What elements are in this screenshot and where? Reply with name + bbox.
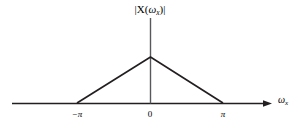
title-bar-close: )| xyxy=(160,3,166,15)
tick-label-negative-pi: −π xyxy=(62,110,92,119)
x-axis-label-subscript: x xyxy=(285,99,288,107)
figure-container: |X(ωx)| −π 0 π ωx xyxy=(0,0,308,129)
title-bar-open: |X( xyxy=(135,3,149,15)
x-axis-arrowhead xyxy=(263,100,272,106)
plot-title: |X(ωx)| xyxy=(0,4,300,17)
x-axis-omega-symbol: ω xyxy=(278,94,285,105)
tick-label-positive-pi: π xyxy=(208,110,238,119)
x-axis-group xyxy=(12,100,272,106)
x-axis-label: ωx xyxy=(278,95,288,107)
tick-label-zero: 0 xyxy=(135,110,165,119)
